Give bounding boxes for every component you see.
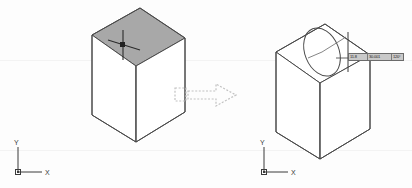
dynamic-input-field-2[interactable]: 120° — [392, 54, 403, 60]
dynamic-input-field-0[interactable]: 11.8 — [349, 54, 368, 60]
ucs-icon-right: Y X — [260, 139, 296, 176]
diagram-canvas: Y X — [0, 0, 412, 188]
dynamic-input-tooltip[interactable]: 11.8 30.001 120° — [348, 53, 404, 61]
right-cube[interactable] — [276, 24, 370, 159]
right-panel: Y X — [0, 0, 412, 188]
dynamic-input-field-1[interactable]: 30.001 — [368, 54, 392, 60]
ucs-x-label: X — [291, 169, 296, 176]
ucs-y-label: Y — [260, 139, 265, 146]
